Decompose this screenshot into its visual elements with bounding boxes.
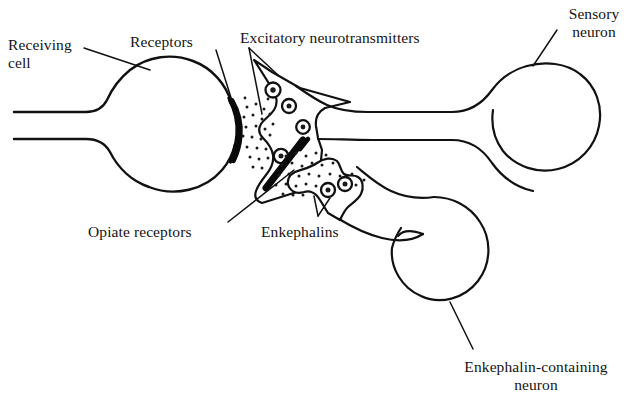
label-excitatory-neurotransmitters: Excitatory neurotransmitters — [240, 29, 420, 47]
label-sensory-neuron: Sensory neuron — [556, 5, 632, 42]
enkephalin-neuron-group — [288, 159, 489, 349]
leader-receiving-cell — [84, 48, 150, 70]
label-receiving-cell: Receiving cell — [8, 36, 72, 73]
vesicle-core — [343, 182, 348, 187]
receiving-cell-body — [14, 57, 235, 192]
label-opiate-receptors: Opiate receptors — [88, 223, 192, 241]
enkephalin-neuron-leader — [450, 302, 473, 349]
vesicle-core — [301, 125, 306, 130]
enkephalin-neuron-body — [392, 197, 489, 300]
leader-sensory-neuron — [533, 30, 557, 66]
label-receptors: Receptors — [130, 33, 193, 51]
label-enkephalins: Enkephalins — [261, 223, 339, 241]
synapse-diagram-svg — [0, 0, 640, 405]
sensory-neuron-body — [492, 63, 600, 170]
vesicle-core — [287, 104, 292, 109]
receiving-cell-group — [14, 57, 240, 192]
leader-enkephalins-2 — [314, 196, 318, 216]
enkephalin-neuron-axon-upper — [357, 167, 434, 198]
vesicle-core — [279, 154, 284, 159]
label-enkephalin-containing-neuron: Enkephalin-containing neuron — [438, 358, 634, 395]
enkephalin-neuron-axon-lower — [339, 219, 423, 240]
diagram-canvas: Receiving cell Receptors Excitatory neur… — [0, 0, 640, 405]
vesicle-core — [326, 188, 331, 193]
leader-receptors — [216, 50, 233, 104]
vesicle-core — [270, 87, 275, 92]
